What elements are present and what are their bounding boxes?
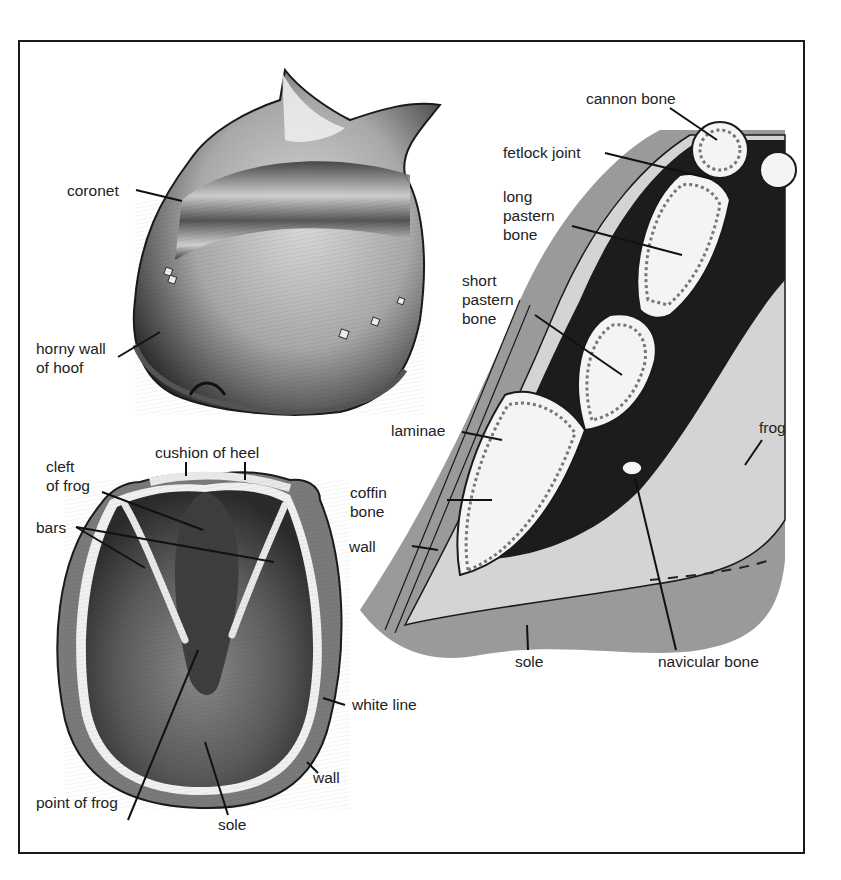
label-point-of-frog: point of frog	[36, 793, 118, 812]
label-fetlock-joint: fetlock joint	[503, 143, 581, 162]
label-short-pastern-bone: short pastern bone	[462, 271, 514, 328]
label-bars: bars	[36, 518, 66, 537]
label-horny-wall-of-hoof: horny wall of hoof	[36, 339, 106, 377]
label-navicular-bone: navicular bone	[658, 652, 759, 671]
underside-hoof-drawing	[57, 472, 350, 810]
label-wall-underside: wall	[313, 768, 340, 787]
label-sole-underside: sole	[218, 815, 246, 834]
side-hoof-drawing	[134, 70, 440, 415]
label-long-pastern-bone: long pastern bone	[503, 187, 555, 244]
label-coffin-bone: coffin bone	[350, 483, 387, 521]
hoof-anatomy-illustration	[0, 0, 841, 880]
label-cannon-bone: cannon bone	[586, 89, 676, 108]
label-white-line: white line	[352, 695, 417, 714]
cross-section-drawing	[360, 122, 796, 658]
label-frog: frog	[759, 418, 786, 437]
label-sole-section: sole	[515, 652, 543, 671]
label-laminae: laminae	[391, 421, 445, 440]
label-coronet: coronet	[67, 181, 119, 200]
label-cushion-of-heel: cushion of heel	[155, 443, 259, 462]
label-cleft-of-frog: cleft of frog	[46, 457, 90, 495]
label-wall-section: wall	[349, 537, 376, 556]
